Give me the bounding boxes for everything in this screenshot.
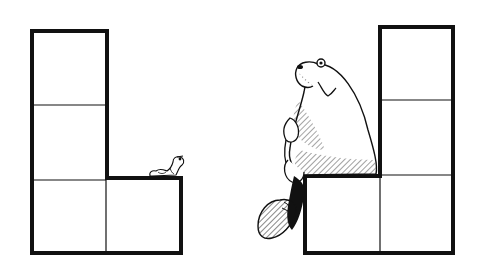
worm-figure <box>150 156 184 176</box>
left-block-structure <box>32 31 181 253</box>
creature-figure <box>258 59 377 239</box>
illustration-scene <box>0 0 480 274</box>
